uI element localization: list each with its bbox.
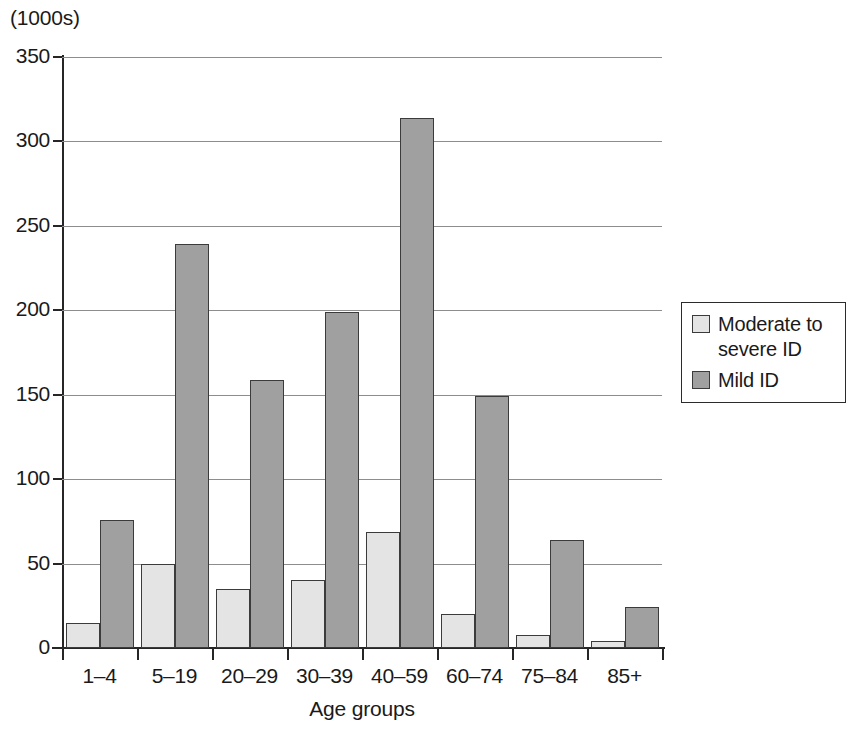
bar-moderate-to-severe: [216, 589, 250, 648]
bar-moderate-to-severe: [591, 641, 625, 648]
x-axis-title: Age groups: [62, 697, 662, 721]
y-axis-tick-label: 0: [4, 635, 50, 659]
x-axis-tick-mark: [137, 649, 139, 660]
x-axis-tick-mark: [587, 649, 589, 660]
legend-item: Moderate to severe ID: [692, 312, 837, 362]
bar-moderate-to-severe: [441, 614, 475, 648]
bar-moderate-to-severe: [66, 623, 100, 648]
y-axis-unit-label: (1000s): [10, 6, 80, 30]
y-axis-tick-label: 50: [4, 551, 50, 575]
x-axis-tick-mark: [62, 649, 64, 660]
gridline: [62, 395, 662, 396]
gridline: [62, 310, 662, 311]
gridline: [62, 57, 662, 58]
y-axis-tick-label: 150: [4, 382, 50, 406]
x-axis-tick-label: 1–4: [62, 664, 137, 688]
x-axis-tick-label: 30–39: [287, 664, 362, 688]
gridline: [62, 479, 662, 480]
x-axis-tick-label: 40–59: [362, 664, 437, 688]
chart-legend: Moderate to severe IDMild ID: [681, 302, 846, 403]
bar-mild: [550, 540, 584, 648]
x-axis-tick-label: 60–74: [437, 664, 512, 688]
legend-label: Mild ID: [718, 368, 779, 393]
bar-mild: [175, 244, 209, 648]
y-axis-tick-label: 300: [4, 128, 50, 152]
legend-item: Mild ID: [692, 368, 837, 393]
bar-mild: [325, 312, 359, 648]
y-axis-tick-label: 250: [4, 213, 50, 237]
y-axis-tick-label: 200: [4, 297, 50, 321]
legend-swatch-moderate: [692, 315, 710, 333]
x-axis-tick-label: 20–29: [212, 664, 287, 688]
bar-mild: [625, 607, 659, 648]
bar-mild: [100, 520, 134, 648]
bar-chart-figure: (1000s) 050100150200250300350 1–45–1920–…: [0, 0, 861, 735]
y-axis-tick-label: 350: [4, 44, 50, 68]
bar-moderate-to-severe: [291, 580, 325, 648]
x-axis-tick-mark: [662, 649, 664, 660]
bar-mild: [475, 396, 509, 648]
gridline: [62, 226, 662, 227]
bar-mild: [250, 380, 284, 648]
x-axis-tick-mark: [287, 649, 289, 660]
x-axis-tick-label: 5–19: [137, 664, 212, 688]
x-axis-tick-mark: [212, 649, 214, 660]
x-axis-tick-label: 75–84: [512, 664, 587, 688]
plot-area: [62, 57, 662, 648]
x-axis-tick-label: 85+: [587, 664, 662, 688]
x-axis-tick-mark: [437, 649, 439, 660]
bar-mild: [400, 118, 434, 648]
bar-moderate-to-severe: [366, 532, 400, 649]
legend-label: Moderate to severe ID: [718, 312, 837, 362]
gridline: [62, 141, 662, 142]
x-axis-tick-mark: [362, 649, 364, 660]
y-axis-tick-label: 100: [4, 466, 50, 490]
x-axis-tick-mark: [512, 649, 514, 660]
bar-moderate-to-severe: [141, 564, 175, 648]
legend-swatch-mild: [692, 371, 710, 389]
bar-moderate-to-severe: [516, 635, 550, 649]
